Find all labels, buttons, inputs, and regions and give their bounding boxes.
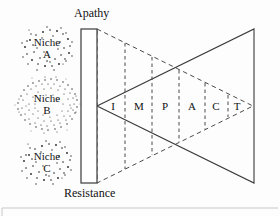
resistance-label: Resistance [64,186,115,201]
niche-a-dot-cloud [21,26,72,70]
solid-triangle-path [97,29,254,183]
resistance-barrier-bar [81,29,97,183]
impact-letter-a: A [188,100,196,112]
barrier-rect [81,29,97,183]
apathy-label: Apathy [74,6,109,21]
dashed-impact-triangle [97,29,253,183]
figure-container: Apathy Resistance Niche A Niche B Niche … [0,0,280,216]
niche-b-dot-cloud [15,77,81,134]
solid-impact-triangle [97,29,254,183]
niche-c-dot-cloud [20,140,71,184]
impact-letter-c: C [212,100,219,112]
impact-letter-i: I [111,100,115,112]
dashed-triangle-path [97,29,253,183]
impact-letter-p: P [162,100,168,112]
impact-letter-m: M [134,100,144,112]
impact-letter-t: T [234,100,241,112]
